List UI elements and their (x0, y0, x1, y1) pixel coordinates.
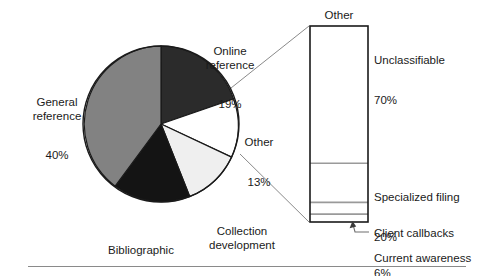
pie-label-bibliographic: Bibliographic 16% (97, 218, 185, 276)
pie-label-online-reference-name: Online reference (190, 45, 270, 71)
pie-label-bibliographic-name: Bibliographic (97, 244, 185, 257)
bar-segment-client-callbacks (310, 202, 368, 214)
pie-label-general-reference-value: 40% (14, 149, 100, 162)
bar-segment-unclassifiable (310, 26, 368, 163)
pie-label-general-reference-name: General reference (14, 96, 100, 122)
bar-label-current-awareness-name: Current awareness (374, 252, 492, 265)
pie-label-general-reference: General reference 40% (14, 70, 100, 189)
pie-label-collection-development: Collection development 12% (196, 199, 288, 276)
bar-title-other: Other (310, 9, 368, 22)
bar-label-unclassifiable: Unclassifiable 70% (374, 28, 486, 134)
bottom-rule (28, 266, 466, 267)
bar-segment-current-awareness (310, 214, 368, 222)
bar-label-unclassifiable-name: Unclassifiable (374, 54, 486, 67)
bar-segment-specialized-filing (310, 163, 368, 202)
breakout-stacked-bar (310, 26, 368, 222)
bar-label-current-awareness: Current awareness 4% (374, 226, 492, 276)
bar-label-unclassifiable-value: 70% (374, 94, 486, 107)
figure-pie-with-breakout-bar: General reference 40% Online reference 1… (0, 0, 492, 276)
pie-label-other-name: Other (233, 136, 285, 149)
pie-label-collection-development-name: Collection development (196, 225, 288, 251)
pie-label-other-value: 13% (233, 176, 285, 189)
pointer-elbow-line (353, 223, 370, 233)
